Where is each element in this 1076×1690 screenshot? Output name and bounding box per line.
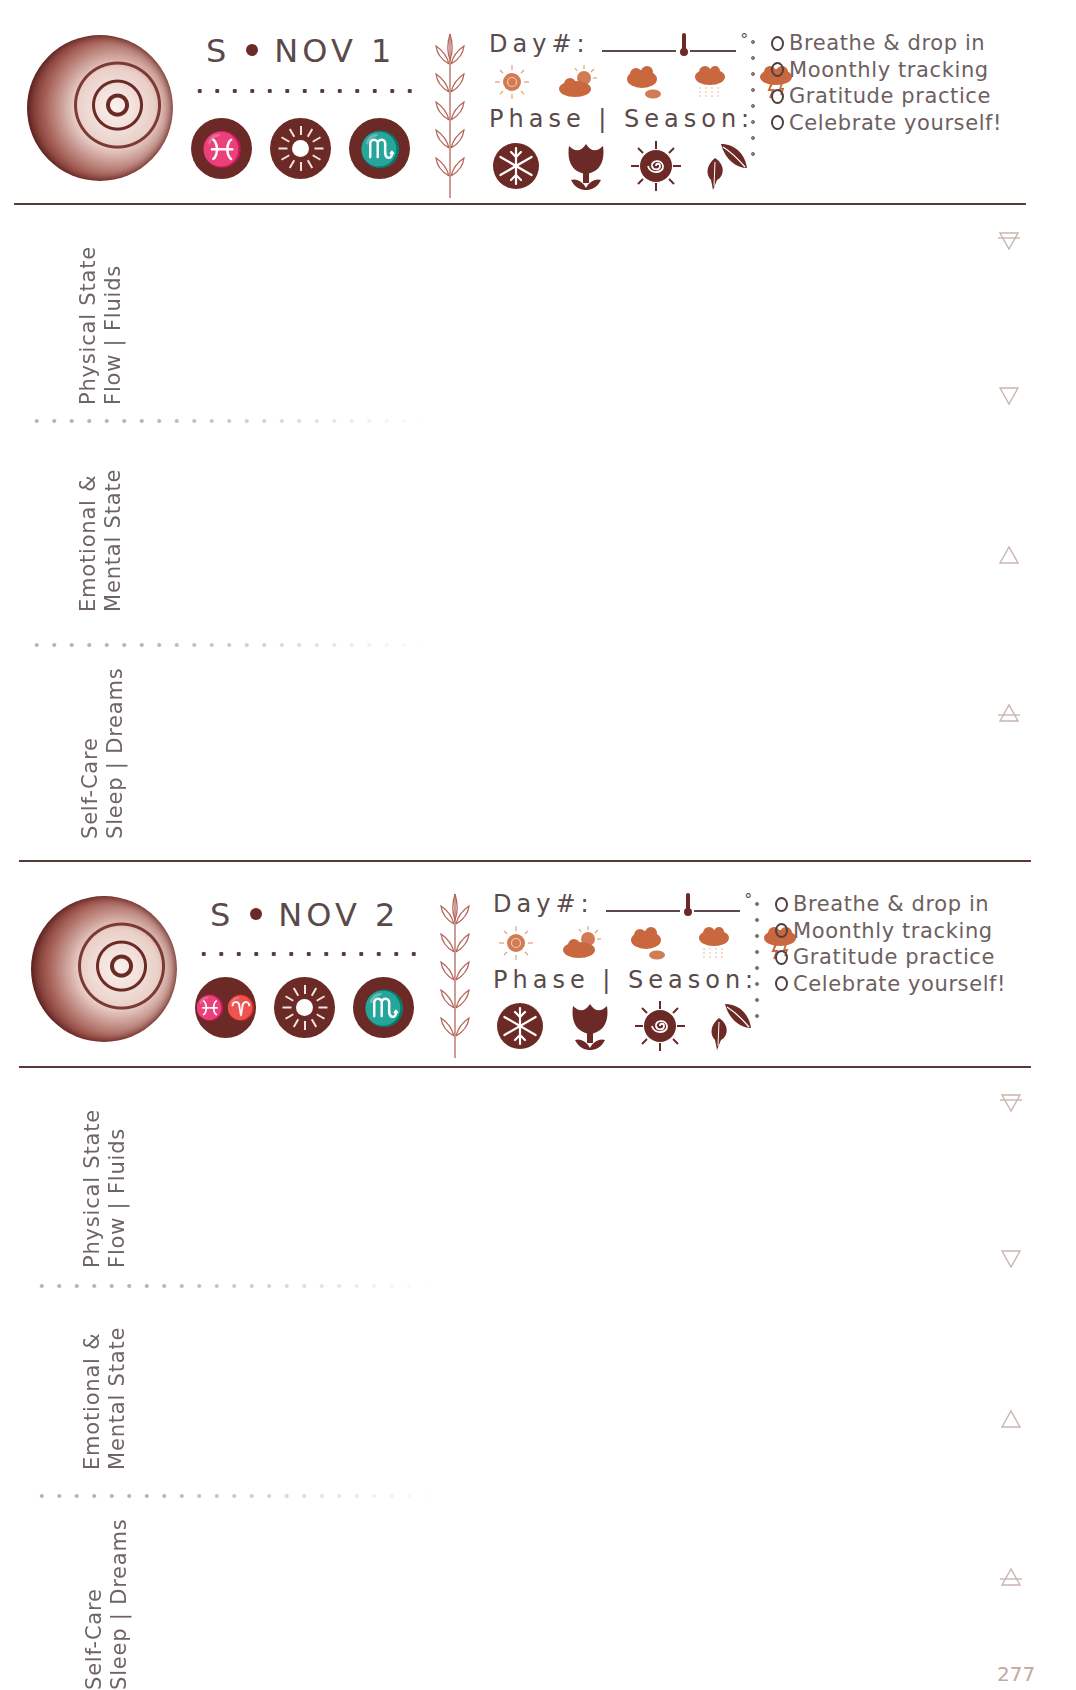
bullet-dot — [250, 908, 262, 920]
weekday-letter: S — [206, 32, 230, 70]
degree-symbol: ° — [740, 30, 748, 49]
autumn-leaves-icon[interactable] — [701, 140, 751, 192]
day-number-field: Day#: ° — [489, 30, 748, 58]
section-label: Physical StateFlow | Fluids — [30, 1088, 180, 1268]
day-label: Day#: — [493, 890, 594, 918]
fire-icon — [1000, 1408, 1022, 1430]
section-label: Self-CareSleep | Dreams — [32, 1512, 182, 1690]
date-heading: SNOV 2 — [210, 896, 399, 934]
zodiac-row: ♓♈ ♏ — [195, 977, 414, 1038]
scorpio-icon: ♏ — [353, 977, 414, 1038]
degree-symbol: ° — [744, 890, 752, 909]
circle-checkbox-icon[interactable] — [775, 976, 788, 991]
air-icon — [998, 702, 1020, 724]
rain-icon[interactable] — [692, 924, 736, 962]
section-physical-state[interactable]: Physical StateFlow | Fluids — [0, 205, 1076, 418]
phase-season-label: Phase | Season: — [493, 966, 758, 994]
day-label: Day#: — [489, 30, 590, 58]
circle-checkbox-icon[interactable] — [771, 36, 784, 51]
air-icon — [1000, 1566, 1022, 1588]
date-label: NOV 2 — [278, 896, 399, 934]
day-entry-nov-1: SNOV 1 ♓ ♏ Day#: ° Phase | Season: — [0, 0, 1076, 860]
temperature-input[interactable] — [690, 50, 736, 52]
thermometer-icon — [686, 893, 690, 913]
day-top-divider-line — [19, 860, 1031, 862]
circle-checkbox-icon[interactable] — [775, 950, 788, 965]
section-label: Physical StateFlow | Fluids — [26, 225, 176, 405]
season-options — [491, 140, 751, 192]
partly-cloudy-icon[interactable] — [556, 63, 600, 101]
water-icon — [1000, 1248, 1022, 1270]
day-entry-nov-2: SNOV 2 ♓♈ ♏ Day#: ° Phase | Season: — [0, 860, 1076, 1690]
vertical-dotted-divider — [751, 34, 755, 164]
section-label: Emotional &Mental State — [26, 452, 176, 612]
partly-cloudy-icon[interactable] — [560, 924, 604, 962]
section-self-care[interactable]: Self-CareSleep | Dreams — [0, 1498, 1076, 1690]
zodiac-row: ♓ ♏ — [191, 118, 410, 179]
vertical-dotted-divider — [755, 896, 759, 1026]
thermometer-icon — [682, 33, 686, 53]
sunny-icon[interactable] — [490, 63, 534, 101]
scorpio-icon: ♏ — [349, 118, 410, 179]
section-label: Self-CareSleep | Dreams — [28, 664, 178, 839]
moon-phase-icon — [31, 896, 177, 1042]
winter-snowflake-icon[interactable] — [495, 1000, 545, 1052]
fire-icon — [998, 544, 1020, 566]
spring-tulip-icon[interactable] — [565, 1000, 615, 1052]
water-icon — [998, 385, 1020, 407]
day-number-field: Day#: ° — [493, 890, 752, 918]
section-self-care[interactable]: Self-CareSleep | Dreams — [0, 648, 1076, 858]
section-physical-state[interactable]: Physical StateFlow | Fluids — [0, 1068, 1076, 1283]
summer-sun-spiral-icon[interactable] — [635, 1000, 685, 1052]
date-label: NOV 1 — [274, 32, 395, 70]
dotted-section-divider — [28, 643, 428, 647]
circle-checkbox-icon[interactable] — [771, 62, 784, 77]
sunny-icon[interactable] — [494, 924, 538, 962]
day-number-input[interactable] — [606, 910, 680, 912]
dotted-divider — [191, 89, 419, 93]
dotted-divider — [195, 952, 423, 956]
checklist-item[interactable]: Moonthly tracking — [771, 57, 1002, 84]
wheat-divider-icon — [437, 890, 473, 1060]
circle-checkbox-icon[interactable] — [771, 115, 784, 130]
checklist-item[interactable]: Breathe & drop in — [775, 891, 1006, 918]
rain-icon[interactable] — [688, 63, 732, 101]
pisces-icon: ♓ — [191, 118, 252, 179]
season-options — [495, 1000, 755, 1052]
circle-checkbox-icon[interactable] — [775, 923, 788, 938]
circle-checkbox-icon[interactable] — [775, 897, 788, 912]
date-heading: SNOV 1 — [206, 32, 395, 70]
section-label: Emotional &Mental State — [30, 1310, 180, 1470]
page-number: 277 — [997, 1662, 1035, 1686]
spring-tulip-icon[interactable] — [561, 140, 611, 192]
wheat-divider-icon — [432, 30, 468, 200]
section-emotional-state[interactable]: Emotional &Mental State — [0, 1288, 1076, 1493]
bullet-dot — [246, 44, 258, 56]
autumn-leaves-icon[interactable] — [705, 1000, 755, 1052]
daily-checklist: Breathe & drop in Moonthly tracking Grat… — [775, 891, 1006, 997]
temperature-input[interactable] — [694, 910, 740, 912]
summer-sun-spiral-icon[interactable] — [631, 140, 681, 192]
sun-icon — [274, 977, 335, 1038]
circle-checkbox-icon[interactable] — [771, 89, 784, 104]
checklist-item[interactable]: Celebrate yourself! — [771, 110, 1002, 137]
weekday-letter: S — [210, 896, 234, 934]
daily-checklist: Breathe & drop in Moonthly tracking Grat… — [771, 30, 1002, 136]
checklist-item[interactable]: Gratitude practice — [775, 944, 1006, 971]
phase-season-label: Phase | Season: — [489, 105, 754, 133]
checklist-item[interactable]: Breathe & drop in — [771, 30, 1002, 57]
checklist-item[interactable]: Moonthly tracking — [775, 918, 1006, 945]
earth-icon — [998, 230, 1020, 252]
section-emotional-state[interactable]: Emotional &Mental State — [0, 423, 1076, 641]
checklist-item[interactable]: Gratitude practice — [771, 83, 1002, 110]
earth-icon — [1000, 1092, 1022, 1114]
pisces-aries-icon: ♓♈ — [195, 977, 256, 1038]
moon-phase-icon — [27, 35, 173, 181]
winter-snowflake-icon[interactable] — [491, 140, 541, 192]
cloudy-icon[interactable] — [622, 63, 666, 101]
checklist-item[interactable]: Celebrate yourself! — [775, 971, 1006, 998]
sun-icon — [270, 118, 331, 179]
day-number-input[interactable] — [602, 50, 676, 52]
cloudy-icon[interactable] — [626, 924, 670, 962]
